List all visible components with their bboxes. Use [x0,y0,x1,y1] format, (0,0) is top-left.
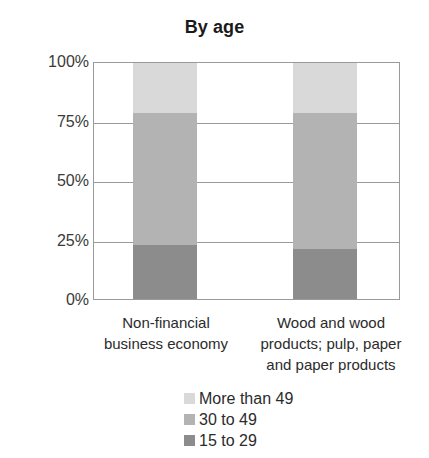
legend-label: 15 to 29 [199,433,257,449]
legend-swatch-icon [184,393,195,404]
y-tick-label: 0% [3,291,89,309]
plot-area [93,62,400,300]
bar-segment-30-to-49 [133,113,197,245]
category-label-line: products; pulp, paper [238,333,424,354]
legend-item-15-to-29: 15 to 29 [184,430,293,451]
legend-swatch-icon [184,414,195,425]
bar-group-1 [293,63,357,299]
category-label-line: Wood and wood [238,312,424,333]
legend-item-more-than-49: More than 49 [184,388,293,409]
chart-container: By age 100% 75% 50% 25% 0% Non-financial… [0,0,429,458]
x-axis-category-label: Non-financial business economy [73,312,259,354]
x-axis-category-label: Wood and wood products; pulp, paper and … [238,312,424,375]
bar-group-0 [133,63,197,299]
bar-segment-15-to-29 [293,249,357,299]
category-label-line: business economy [73,333,259,354]
legend-item-30-to-49: 30 to 49 [184,409,293,430]
y-tick-label: 50% [3,172,89,190]
legend-label: 30 to 49 [199,412,257,428]
chart-title: By age [0,17,429,38]
category-label-line: and paper products [238,354,424,375]
legend-label: More than 49 [199,391,293,407]
y-tick-label: 100% [3,53,89,71]
legend-swatch-icon [184,435,195,446]
category-label-line: Non-financial [73,312,259,333]
y-axis: 100% 75% 50% 25% 0% [0,62,89,300]
chart-legend: More than 49 30 to 49 15 to 29 [184,388,293,451]
y-tick-label: 75% [3,113,89,131]
bar-segment-30-to-49 [293,113,357,250]
y-tick-label: 25% [3,232,89,250]
bar-segment-more-than-49 [133,63,197,113]
bar-segment-15-to-29 [133,245,197,299]
bar-segment-more-than-49 [293,63,357,113]
